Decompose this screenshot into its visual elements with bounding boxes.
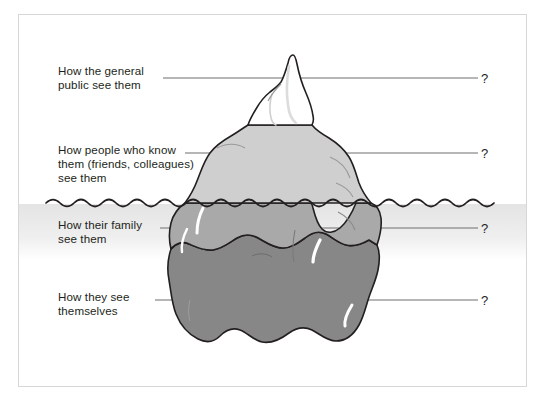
question-mark-themselves: ? [481, 293, 488, 308]
question-mark-general-public: ? [481, 71, 488, 86]
question-mark-people-who-know-them: ? [481, 146, 488, 161]
label-family: How their family see them [58, 218, 142, 246]
label-themselves: How they see themselves [58, 290, 129, 318]
iceberg-tip [248, 55, 313, 125]
iceberg-above-water-body [185, 125, 371, 203]
label-general-public: How the general public see them [58, 64, 144, 92]
label-people-who-know-them: How people who know them (friends, colle… [58, 143, 194, 186]
question-mark-family: ? [481, 221, 488, 236]
iceberg-diagram [0, 0, 550, 408]
diagram-page: How the general public see them How peop… [0, 0, 550, 408]
